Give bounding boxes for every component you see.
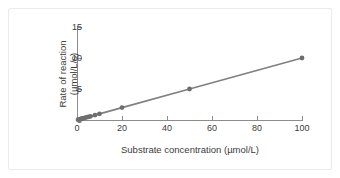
data-point-marker — [300, 56, 305, 61]
data-point-marker — [120, 105, 125, 110]
y-axis-label-line2: (µmol/L/s) — [68, 52, 79, 94]
data-point-marker — [187, 87, 192, 92]
y-axis-label-line1: Rate of reaction — [57, 40, 68, 107]
chart-figure: 0 20 40 60 80 100 0 5 10 15 Substrate co… — [0, 0, 340, 178]
y-axis-label-container: Rate of reaction (µmol/L/s) — [22, 27, 115, 120]
y-axis-label: Rate of reaction (µmol/L/s) — [58, 40, 80, 107]
x-axis-label: Substrate concentration (µmol/L) — [77, 145, 303, 155]
